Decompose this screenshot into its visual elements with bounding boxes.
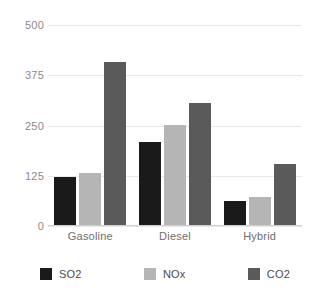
bar-so2-gasoline[interactable] xyxy=(54,177,76,226)
bar-chart: 0125250375500 GasolineDieselHybrid SO2NO… xyxy=(0,0,314,304)
bar-co2-gasoline[interactable] xyxy=(104,62,126,226)
x-axis-tick-label: Gasoline xyxy=(48,230,133,242)
x-axis-tick-label: Diesel xyxy=(133,230,218,242)
legend-swatch-icon xyxy=(248,268,260,280)
y-axis-tick-label: 500 xyxy=(4,19,44,31)
y-axis: 0125250375500 xyxy=(0,25,44,226)
legend-label: NOx xyxy=(163,268,186,280)
legend: SO2NOxCO2 xyxy=(40,268,290,280)
bar-nox-diesel[interactable] xyxy=(164,125,186,226)
legend-label: SO2 xyxy=(59,268,82,280)
bar-group xyxy=(133,25,218,226)
bar-groups xyxy=(48,25,302,226)
bar-co2-hybrid[interactable] xyxy=(274,164,296,226)
bar-nox-hybrid[interactable] xyxy=(249,197,271,226)
legend-item-co2[interactable]: CO2 xyxy=(248,268,290,280)
bar-so2-hybrid[interactable] xyxy=(224,201,246,226)
bar-co2-diesel[interactable] xyxy=(189,103,211,226)
legend-item-so2[interactable]: SO2 xyxy=(40,268,82,280)
y-axis-tick-label: 0 xyxy=(4,220,44,232)
bar-so2-diesel[interactable] xyxy=(139,142,161,226)
x-axis-tick-label: Hybrid xyxy=(217,230,302,242)
y-axis-tick-label: 250 xyxy=(4,120,44,132)
bar-group xyxy=(217,25,302,226)
plot-area xyxy=(48,25,302,226)
legend-item-nox[interactable]: NOx xyxy=(144,268,186,280)
axis-baseline xyxy=(48,225,302,226)
x-axis: GasolineDieselHybrid xyxy=(48,230,302,242)
y-axis-tick-label: 375 xyxy=(4,69,44,81)
bar-nox-gasoline[interactable] xyxy=(79,173,101,226)
legend-swatch-icon xyxy=(144,268,156,280)
bar-group xyxy=(48,25,133,226)
legend-label: CO2 xyxy=(267,268,290,280)
y-axis-tick-label: 125 xyxy=(4,170,44,182)
legend-swatch-icon xyxy=(40,268,52,280)
gridline xyxy=(48,226,302,227)
